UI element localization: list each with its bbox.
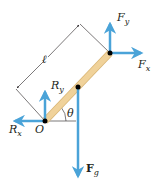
extension-line-top <box>80 24 110 53</box>
pivot-point <box>43 119 48 124</box>
force-y-label: Fy <box>116 11 130 26</box>
reaction-x-label: Rx <box>8 123 22 138</box>
dimension-line <box>48 25 79 57</box>
pivot-label: O <box>35 123 44 136</box>
dimension-line <box>17 61 44 88</box>
center-of-mass-point <box>76 85 81 90</box>
rod-force-diagram: ℓ θ Fg Fy Fx Ry Rx O <box>0 0 155 182</box>
angle-label: θ <box>67 107 74 120</box>
force-x-label: Fx <box>137 58 151 73</box>
angle-arc <box>61 107 66 121</box>
gravity-force-label: Fg <box>86 162 99 177</box>
reaction-y-label: Ry <box>50 79 64 94</box>
rod-end-point <box>108 51 113 56</box>
length-label: ℓ <box>42 53 47 66</box>
extension-line-bottom <box>16 89 45 121</box>
